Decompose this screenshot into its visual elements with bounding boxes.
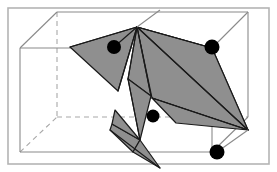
vertex-marker-upper-right	[205, 40, 220, 55]
vertex-marker-center-lower	[147, 110, 160, 123]
vertex-marker-upper-left	[107, 40, 121, 54]
figure-container: 3D bounding box with shaded polyhedral s…	[0, 0, 277, 172]
geometry-diagram-svg: 3D bounding box with shaded polyhedral s…	[0, 0, 277, 172]
vertex-marker-bottom-right	[210, 145, 225, 160]
